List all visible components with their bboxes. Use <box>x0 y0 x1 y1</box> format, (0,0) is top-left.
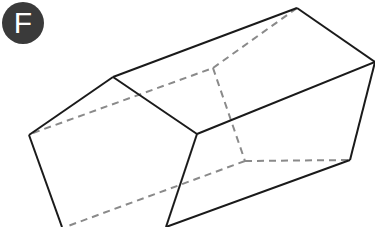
hidden-edges <box>33 8 350 226</box>
visible-edges <box>29 8 375 227</box>
pentagonal-prism-diagram <box>0 0 375 227</box>
